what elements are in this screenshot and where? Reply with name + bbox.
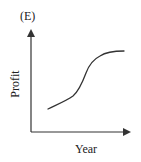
profit-curve: [48, 51, 124, 109]
y-axis-label: Profit: [8, 70, 22, 98]
figure-label: (E): [20, 9, 35, 23]
x-axis-label: Year: [75, 142, 97, 156]
chart-figure: (E) Profit Year: [0, 0, 141, 162]
